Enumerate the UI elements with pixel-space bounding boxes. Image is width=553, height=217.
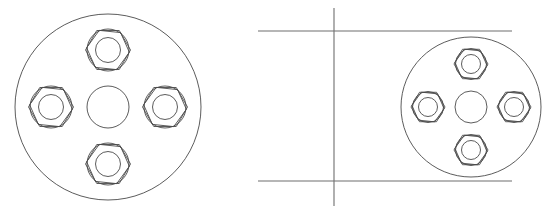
right-flange-view[interactable] xyxy=(401,37,541,177)
bolt-washer-circle xyxy=(499,92,530,123)
bolt-assembly[interactable] xyxy=(497,92,531,123)
bolt-hole-circle xyxy=(153,95,178,120)
bolt-assembly[interactable] xyxy=(143,86,188,128)
bolt-assembly[interactable] xyxy=(86,143,131,185)
bolt-hole-circle xyxy=(419,98,438,117)
bolt-assembly[interactable] xyxy=(411,92,445,123)
bolt-hole-circle xyxy=(39,95,64,120)
bolt-hole-circle xyxy=(505,98,524,117)
bolt-hole-circle xyxy=(96,152,121,177)
flange-hub-bore-circle[interactable] xyxy=(87,86,129,128)
bolt-washer-circle xyxy=(144,86,186,128)
bolt-washer-circle xyxy=(456,135,487,166)
bolt-assembly[interactable] xyxy=(454,49,488,80)
bolt-washer-circle xyxy=(87,29,129,71)
bolt-washer-circle xyxy=(87,143,129,185)
flange-outer-circle[interactable] xyxy=(401,37,541,177)
bolt-hole-circle xyxy=(462,141,481,160)
drawing-svg-root xyxy=(0,0,553,217)
bolt-washer-circle xyxy=(413,92,444,123)
flange-hub-bore-circle[interactable] xyxy=(455,91,487,123)
bolt-washer-circle xyxy=(30,86,72,128)
bolt-washer-circle xyxy=(456,49,487,80)
left-flange-view[interactable] xyxy=(15,14,201,200)
bolt-hole-circle xyxy=(462,55,481,74)
construction-lines-group xyxy=(258,8,512,206)
flange-outer-circle[interactable] xyxy=(15,14,201,200)
bolt-assembly[interactable] xyxy=(86,29,131,71)
technical-drawing-canvas xyxy=(0,0,553,217)
bolt-assembly[interactable] xyxy=(454,135,488,166)
bolt-hole-circle xyxy=(96,38,121,63)
bolt-assembly[interactable] xyxy=(29,86,74,128)
